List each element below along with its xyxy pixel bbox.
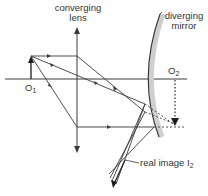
mirror-label-line2: mirror [160, 21, 208, 31]
lens-top-arrowhead-icon [74, 27, 80, 34]
ray-central [31, 56, 145, 104]
lens-label: converging lens [54, 3, 102, 23]
dashed-extension [145, 112, 175, 124]
lens-bottom-arrowhead-icon [74, 146, 80, 153]
object-o1-label: O1 [25, 83, 36, 94]
ray-focal [31, 56, 77, 127]
i2-text: real image I [140, 157, 190, 168]
o2-subscript: 2 [175, 70, 179, 77]
i2-label-leader [125, 160, 139, 163]
real-image-label: real image I2 [140, 158, 194, 169]
mirror-label: diverging mirror [160, 11, 208, 31]
ray-arrow-icon [47, 54, 51, 58]
o1-subscript: 1 [32, 87, 36, 94]
ray-parallel-refracted [77, 56, 145, 112]
lens-label-line2: lens [54, 13, 102, 23]
dashed-extension [145, 104, 175, 125]
o2-arrowhead-icon [171, 118, 179, 126]
i2-subscript: 2 [190, 162, 194, 169]
ray-arrow-icon [50, 63, 54, 67]
object-o2-label: O2 [168, 66, 179, 77]
ray-arrow-icon [107, 125, 111, 129]
reflected-ray [116, 104, 145, 184]
